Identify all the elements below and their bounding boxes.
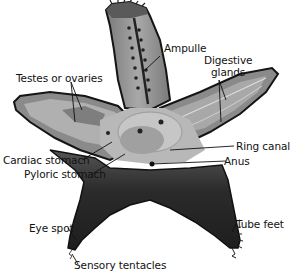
label-ampulle: Ampulle <box>164 42 206 54</box>
label-anus: Anus <box>224 155 250 167</box>
label-sensory-tentacles: Sensory tentacles <box>74 259 166 271</box>
label-testes-or-ovaries: Testes or ovaries <box>16 72 103 84</box>
label-eye-spot: Eye spot <box>29 222 74 234</box>
label-digestive-line2: glands <box>211 66 245 78</box>
label-digestive-line1: Digestive <box>204 54 252 66</box>
label-pyloric-stomach: Pyloric stomach <box>24 168 106 180</box>
label-ring-canal: Ring canal <box>236 140 290 152</box>
label-tube-feet: Tube feet <box>236 218 284 230</box>
starfish-top-arm <box>106 0 170 110</box>
label-cardiac-stomach: Cardiac stomach <box>3 154 90 166</box>
lower-left-tentacle <box>69 250 72 259</box>
